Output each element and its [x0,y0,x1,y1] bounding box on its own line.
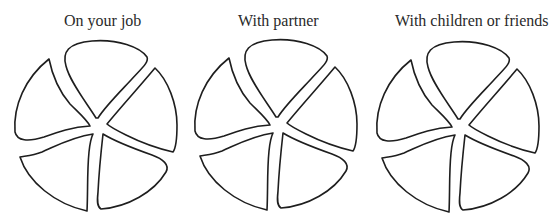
pie-diagram-on-your-job [15,41,177,211]
pie-diagrams [0,0,553,224]
pie-diagram-with-partner [195,40,357,210]
pie-diagram-with-children-or-friends [377,42,539,212]
